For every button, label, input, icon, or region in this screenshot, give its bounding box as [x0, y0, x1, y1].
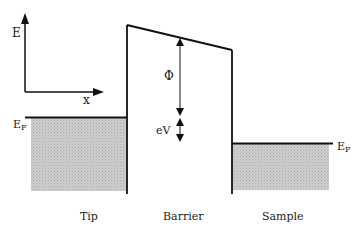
tip-filled-states [31, 118, 127, 191]
axes: E x [12, 13, 104, 107]
region-label-sample: Sample [262, 210, 304, 223]
work-function-label: Φ [164, 69, 174, 83]
arrow-down-icon [176, 134, 184, 142]
x-axis-arrow-icon [93, 88, 104, 96]
sample-filled-states [232, 144, 329, 190]
arrow-up-icon [176, 118, 184, 126]
band-diagram: E x EF EF Φ eV Tip Barrier Sample [0, 0, 363, 233]
bias-label: eV [156, 124, 172, 137]
region-label-barrier: Barrier [163, 210, 204, 223]
y-axis-label: E [12, 26, 21, 40]
x-axis-label: x [83, 93, 90, 107]
region-label-tip: Tip [80, 210, 98, 223]
work-function-arrow: Φ [164, 38, 184, 116]
sample-fermi-label: EF [337, 140, 351, 154]
tip-fermi-label: EF [13, 118, 27, 132]
bias-arrow: eV [156, 118, 184, 142]
arrow-down-icon [176, 108, 184, 116]
y-axis-arrow-icon [21, 13, 29, 24]
